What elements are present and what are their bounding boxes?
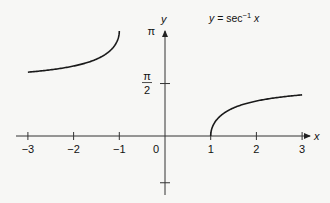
- curve-left-branch: [28, 31, 119, 72]
- x-tick-label: −3: [22, 143, 35, 155]
- x-tick-label: 0: [153, 143, 159, 155]
- x-axis-label: x: [313, 130, 320, 142]
- curve-right-branch: [211, 95, 302, 136]
- title-rhs: x: [251, 12, 260, 24]
- chart-title: y = sec−1 x: [208, 11, 260, 24]
- y-tick-label-den: 2: [144, 84, 150, 96]
- y-ticks: ππ2: [142, 25, 170, 183]
- x-ticks: −3−2−10123: [22, 132, 306, 155]
- title-eq: = sec: [214, 12, 242, 24]
- y-axis-label: y: [160, 13, 168, 25]
- x-tick-label: −1: [113, 143, 126, 155]
- x-tick-label: 1: [208, 143, 214, 155]
- x-tick-label: −2: [67, 143, 80, 155]
- title-sup: −1: [243, 11, 252, 20]
- y-tick-label-num: π: [143, 70, 151, 82]
- x-tick-label: 2: [253, 143, 259, 155]
- y-tick-label-pi: π: [147, 25, 155, 37]
- x-tick-label: 3: [299, 143, 305, 155]
- chart: x y −3−2−10123 ππ2 y = sec−1 x: [0, 0, 330, 203]
